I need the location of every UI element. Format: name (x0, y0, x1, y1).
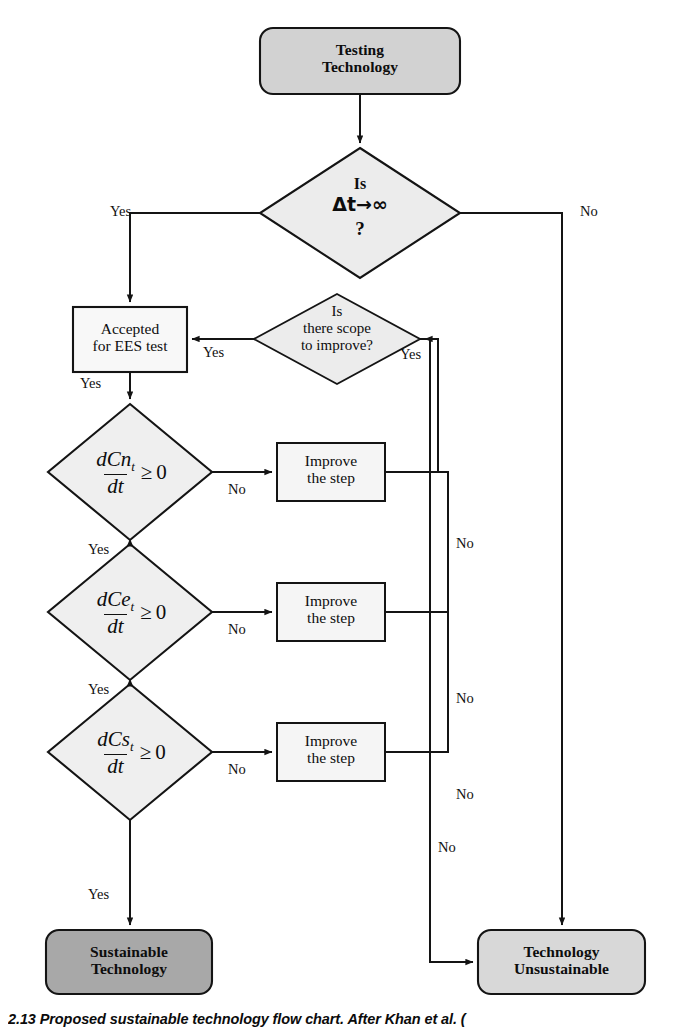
edge-label-scope-yes-left: Yes (203, 344, 224, 361)
edge-label-accepted-yes: Yes (80, 375, 101, 392)
node-unsustainable-shape (478, 930, 645, 994)
edge-label-dt-yes: Yes (110, 203, 131, 220)
node-improve-2-shape (277, 583, 385, 641)
edge-improve2-to-riser (385, 472, 448, 612)
edge-label-cs-yes: Yes (88, 886, 109, 903)
edge-label-improve3-no: No (456, 786, 474, 803)
node-decision-dt-shape (260, 148, 460, 278)
edge-improve3-to-riser (385, 612, 448, 752)
edge-label-cn-no: No (228, 481, 246, 498)
edge-label-scope-yes-right: Yes (400, 346, 421, 363)
edge-label-ce-no: No (228, 621, 246, 638)
edge-scope-no-to-unsustainable (420, 339, 473, 962)
figure-caption: 2.13 Proposed sustainable technology flo… (8, 1011, 689, 1027)
node-decision-cn-shape (48, 404, 212, 540)
edge-label-cn-yes: Yes (88, 541, 109, 558)
edge-dt-no-to-unsustainable (460, 213, 562, 925)
edge-label-ce-yes: Yes (88, 681, 109, 698)
node-improve-1-shape (277, 443, 385, 501)
node-decision-ce-shape (48, 544, 212, 680)
node-scope-shape (254, 294, 420, 384)
flowchart-diagram: Testing Technology Is Δt→∞ ? Accepted fo… (0, 0, 689, 1028)
edge-label-scope-no: No (438, 839, 456, 856)
edge-label-improve2-no: No (456, 690, 474, 707)
edge-dt-yes-to-accepted (130, 213, 260, 302)
flowchart-canvas (0, 0, 689, 1028)
node-decision-cs-shape (48, 684, 212, 820)
node-improve-3-shape (277, 723, 385, 781)
edge-label-dt-no: No (580, 203, 598, 220)
node-sustainable-shape (46, 930, 212, 994)
edge-label-cs-no: No (228, 761, 246, 778)
node-start-shape (260, 28, 460, 94)
node-accepted-shape (73, 307, 187, 372)
edge-label-improve1-no: No (456, 535, 474, 552)
